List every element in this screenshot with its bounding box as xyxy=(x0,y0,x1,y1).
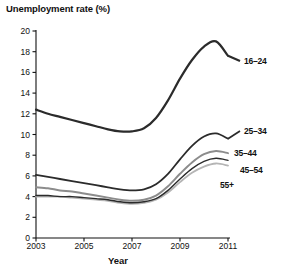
y-tick-20: 20 xyxy=(8,26,30,36)
series-line-16-24 xyxy=(36,41,228,132)
leader-line-16-24 xyxy=(228,56,240,61)
y-tick-14: 14 xyxy=(8,88,30,98)
x-tick-2011: 2011 xyxy=(219,241,237,251)
series-label-16-24: 16–24 xyxy=(244,56,267,66)
series-label-45-54: 45–54 xyxy=(240,165,263,175)
y-axis-tick-labels: 02468101214161820 xyxy=(8,0,30,273)
x-tick-2003: 2003 xyxy=(27,241,46,251)
y-tick-18: 18 xyxy=(8,47,30,57)
x-axis-tick-labels: 20032005200720092011 xyxy=(0,241,299,255)
plot-area xyxy=(0,0,299,273)
y-tick-16: 16 xyxy=(8,67,30,77)
series-line-55+ xyxy=(36,163,228,203)
x-tick-2007: 2007 xyxy=(123,241,142,251)
x-tick-2009: 2009 xyxy=(171,241,190,251)
series-line-35-44 xyxy=(36,151,228,201)
y-tick-10: 10 xyxy=(8,130,30,140)
y-tick-4: 4 xyxy=(8,192,30,202)
y-tick-12: 12 xyxy=(8,109,30,119)
x-axis-title: Year xyxy=(0,255,236,266)
series-label-25-34: 25–34 xyxy=(244,126,267,136)
y-tick-6: 6 xyxy=(8,171,30,181)
series-label-35-44: 35–44 xyxy=(234,148,257,158)
y-tick-8: 8 xyxy=(8,150,30,160)
series-line-25-34 xyxy=(36,133,228,190)
unemployment-rate-chart: Unemployment rate (%) 02468101214161820 … xyxy=(0,0,299,273)
x-tick-2005: 2005 xyxy=(75,241,94,251)
y-tick-2: 2 xyxy=(8,212,30,222)
leader-line-25-34 xyxy=(228,131,240,139)
series-label-55+: 55+ xyxy=(220,180,234,190)
